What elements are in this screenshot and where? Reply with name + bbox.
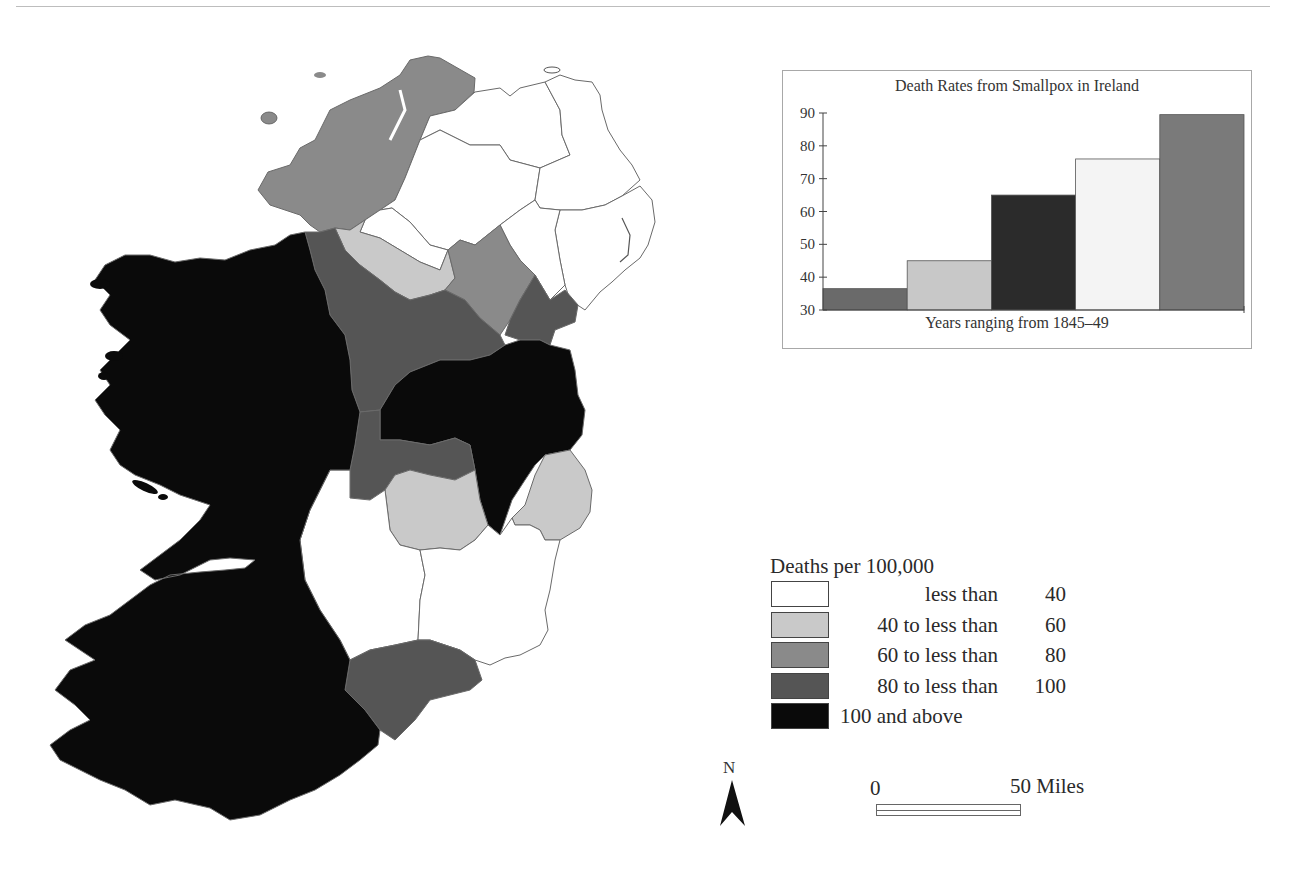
legend-item: 80 to less than100 — [770, 671, 934, 702]
ireland-choropleth-map — [0, 0, 700, 874]
legend-item: less than40 — [770, 579, 934, 610]
legend-label: 40 to less than — [838, 610, 998, 640]
scale-end-label: 50 Miles — [1010, 774, 1084, 799]
y-tick-label: 70 — [800, 171, 815, 187]
legend-label: 80 to less than — [838, 671, 998, 701]
legend-value: 60 — [1002, 610, 1066, 640]
legend-value: 80 — [1002, 640, 1066, 670]
legend-swatch — [771, 642, 829, 668]
island-inishbofin — [98, 372, 110, 380]
bar-1849 — [1160, 115, 1244, 310]
y-tick-label: 90 — [800, 105, 815, 121]
legend-swatch — [771, 673, 829, 699]
north-arrow: N — [718, 758, 750, 828]
bar-1847 — [991, 195, 1075, 310]
island-achill — [90, 279, 110, 289]
legend-title: Deaths per 100,000 — [770, 553, 934, 579]
bar-1846 — [907, 261, 991, 310]
legend-item: 40 to less than60 — [770, 610, 934, 641]
bar-1848 — [1076, 159, 1160, 310]
bar-1845 — [823, 289, 907, 310]
island-arranmore — [261, 112, 277, 124]
legend-item: 100 and above — [770, 701, 934, 732]
legend-label: less than — [838, 579, 998, 609]
legend-value: 40 — [1002, 579, 1066, 609]
scale-bar-graphic — [876, 804, 1021, 816]
legend-label: 60 to less than — [838, 640, 998, 670]
legend-swatch — [771, 703, 829, 729]
scale-bar: 0 50 Miles — [868, 774, 1108, 824]
island-aran-2 — [158, 494, 168, 500]
island-rathlin — [544, 67, 560, 73]
y-tick-label: 60 — [800, 204, 815, 220]
bar-chart-panel: Death Rates from Smallpox in Ireland 304… — [782, 70, 1252, 349]
island-clare — [105, 351, 123, 361]
chart-x-axis-label: Years ranging from 1845–49 — [783, 314, 1251, 332]
island-tory — [314, 72, 326, 78]
bar-chart: 30405060708090 — [783, 71, 1253, 350]
legend-swatch — [771, 612, 829, 638]
y-tick-label: 80 — [800, 138, 815, 154]
map-legend: Deaths per 100,000 less than4040 to less… — [770, 553, 934, 732]
y-tick-label: 40 — [800, 269, 815, 285]
legend-swatch — [771, 581, 829, 607]
legend-label: 100 and above — [840, 701, 962, 731]
region-kilkenny — [385, 470, 488, 550]
north-arrow-icon — [718, 758, 750, 828]
scale-start-label: 0 — [870, 776, 881, 801]
legend-item: 60 to less than80 — [770, 640, 934, 671]
y-tick-label: 50 — [800, 236, 815, 252]
legend-value: 100 — [1002, 671, 1066, 701]
